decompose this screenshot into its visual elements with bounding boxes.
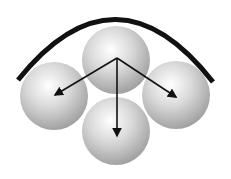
diagram-canvas <box>0 0 231 179</box>
sphere-packing-diagram <box>0 0 231 179</box>
sphere-left <box>20 62 88 130</box>
sphere-bottom <box>82 97 150 165</box>
sphere-right <box>142 61 210 129</box>
sphere-top <box>82 26 150 94</box>
